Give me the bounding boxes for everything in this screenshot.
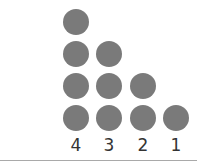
divider-line bbox=[0, 160, 197, 161]
dot bbox=[130, 105, 156, 131]
dot bbox=[96, 41, 122, 67]
dot bbox=[63, 41, 89, 67]
column-label: 3 bbox=[96, 135, 122, 155]
column-label: 2 bbox=[130, 135, 156, 155]
dot bbox=[63, 73, 89, 99]
dot bbox=[63, 9, 89, 35]
dot bbox=[130, 73, 156, 99]
column-label: 1 bbox=[163, 135, 189, 155]
column-label: 4 bbox=[63, 135, 89, 155]
dot bbox=[63, 105, 89, 131]
dot bbox=[96, 73, 122, 99]
dot bbox=[96, 105, 122, 131]
dot bbox=[163, 105, 189, 131]
